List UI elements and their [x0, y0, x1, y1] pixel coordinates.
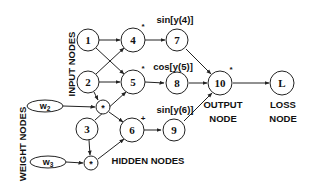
svg-text:4: 4	[130, 34, 136, 46]
w3-subscript: 3	[50, 161, 54, 168]
computational-graph-diagram: INPUT NODES WEIGHT NODES HIDDEN NODES OU…	[0, 0, 310, 186]
svg-text:8: 8	[174, 77, 180, 89]
node-9: 9	[163, 119, 185, 141]
svg-text:3: 3	[84, 123, 90, 135]
svg-text:5: 5	[130, 76, 136, 88]
node-1: 1	[77, 29, 99, 51]
hidden-nodes-label: HIDDEN NODES	[112, 155, 185, 166]
op-mark-6: +	[141, 114, 146, 123]
weight-nodes-label: WEIGHT NODES	[17, 107, 28, 181]
svg-text:6: 6	[129, 124, 135, 136]
function-label-8: cos[y(5)]	[153, 61, 193, 72]
svg-text:10: 10	[215, 77, 227, 89]
output-node-10: 10	[208, 71, 232, 95]
w2-subscript: 2	[47, 105, 51, 112]
svg-text:L: L	[278, 77, 285, 89]
svg-text:7: 7	[174, 34, 180, 46]
op-mark-4: *	[141, 22, 145, 31]
svg-text:*: *	[101, 103, 105, 113]
svg-text:*: *	[89, 159, 93, 169]
function-label-9: sin[y(6)]	[157, 104, 194, 115]
edge-5-8	[145, 82, 164, 83]
loss-node-label-line2: NODE	[269, 113, 296, 124]
output-node-label-line1: OUTPUT	[203, 99, 242, 110]
multiply-node-bottom: *	[84, 156, 98, 170]
node-6: 6	[120, 118, 144, 142]
edge-2-mult-top	[94, 92, 98, 100]
node-3: 3	[76, 118, 98, 140]
node-8: 8	[166, 72, 188, 94]
function-label-7: sin[y(4)]	[157, 14, 194, 25]
edge-w3-mult-bottom	[66, 162, 83, 163]
node-7: 7	[166, 29, 188, 51]
node-4: 4	[121, 28, 145, 52]
edge-w2-mult-top	[63, 106, 95, 107]
output-node-label-line2: NODE	[209, 113, 236, 124]
edge-mult-top-6	[109, 112, 123, 122]
edge-3-mult-bottom	[89, 140, 90, 155]
svg-text:9: 9	[171, 124, 177, 136]
op-mark-10: *	[229, 65, 233, 74]
node-5: 5	[121, 70, 145, 94]
node-2: 2	[77, 71, 99, 93]
svg-text:1: 1	[85, 34, 91, 46]
input-nodes-label: INPUT NODES	[66, 32, 77, 97]
svg-text:2: 2	[85, 76, 91, 88]
loss-node-label-line1: LOSS	[270, 99, 296, 110]
weight-node-w2: w2	[27, 100, 63, 112]
weight-node-w3: w3	[30, 156, 66, 168]
loss-node-L: L	[270, 71, 294, 95]
op-mark-5: *	[141, 64, 145, 73]
multiply-node-top: *	[96, 100, 110, 114]
